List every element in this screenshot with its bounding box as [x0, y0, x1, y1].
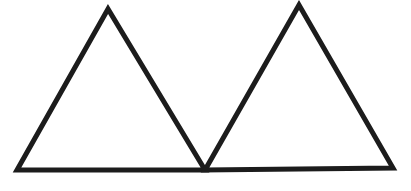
- diagram-canvas: [0, 0, 411, 191]
- right-triangle: [205, 5, 393, 170]
- left-triangle: [17, 9, 205, 170]
